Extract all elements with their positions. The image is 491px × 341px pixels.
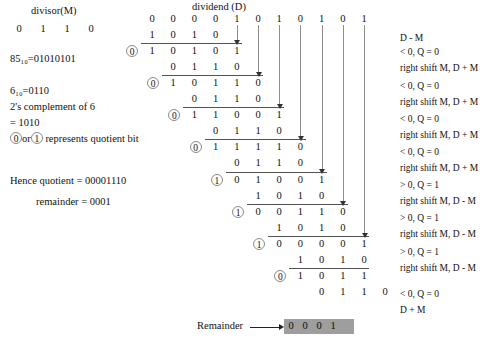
partial-remainder-bit: 1 [209,142,223,153]
remainder-bit: 0 [312,321,326,332]
sum-rule [268,236,369,237]
operand-bit: 1 [145,30,159,41]
bring-down-line [300,25,301,136]
remainder-label: Remainder [197,321,243,332]
partial-remainder-bit: 1 [272,110,286,121]
operand-bit: 1 [187,62,201,73]
operand-bit: 1 [272,223,286,234]
operand-bit: 0 [209,30,223,41]
partial-remainder-bit: 0 [251,207,265,218]
partial-remainder-bit: 0 [272,239,286,250]
partial-remainder-bit: 0 [336,239,350,250]
partial-remainder-bit: 1 [251,175,265,186]
partial-remainder-bit: 1 [272,142,286,153]
quotient-bit: 1 [253,238,265,250]
remainder-bit: 1 [326,321,340,332]
operand-bit: 0 [230,158,244,169]
note-d-minus-m: D - M [400,34,423,44]
dividend-bit: 1 [272,14,286,25]
partial-remainder-bit: 0 [166,46,180,57]
partial-remainder-bit: 0 [230,110,244,121]
operand-bit: 1 [209,62,223,73]
partial-remainder-bit: 0 [251,110,265,121]
partial-remainder-bit: 0 [209,46,223,57]
partial-remainder-bit: 0 [293,142,307,153]
partial-remainder-bit: 1 [293,271,307,282]
bring-down-line [237,25,238,40]
sum-rule [205,139,306,140]
operand-bit: 1 [293,255,307,266]
bring-down-arrow-icon [277,104,283,109]
partial-remainder-bit: 1 [315,175,329,186]
note-action: right shift M, D - M [400,264,476,274]
operand-bit: 0 [166,62,180,73]
partial-remainder-bit: 1 [357,271,371,282]
operand-bit: 0 [272,126,286,137]
note-compare: < 0, Q = 0 [400,148,439,158]
remainder-value-box: 0 0 0 1 [284,319,354,334]
operand-bit: 1 [293,191,307,202]
bring-down-arrow-icon [298,136,304,141]
note-compare: < 0, Q = 0 [400,48,439,58]
dividend-bit: 0 [187,14,201,25]
partial-remainder-bit: 0 [315,271,329,282]
operand-bit: 1 [251,126,265,137]
operand-bit: 0 [230,62,244,73]
partial-remainder-bit: 0 [187,78,201,89]
operand-bit: 0 [293,158,307,169]
bring-down-arrow-icon [319,169,325,174]
partial-remainder-bit: 0 [315,239,329,250]
operand-bit: 0 [336,223,350,234]
division-work-area: 0000101010110100101010110010110011001100… [0,0,392,341]
note-d-plus-m: D + M [400,306,425,316]
partial-remainder-bit: 1 [336,271,350,282]
operand-bit: 1 [315,223,329,234]
quotient-bit: 0 [190,141,202,153]
partial-remainder-bit: 1 [315,207,329,218]
bring-down-line [322,25,323,169]
operand-bit: 0 [293,223,307,234]
dividend-bit: 0 [336,14,350,25]
bring-down-arrow-icon [256,72,262,77]
partial-remainder-bit: 0 [272,207,286,218]
partial-remainder-bit: 0 [336,207,350,218]
operand-bit: 1 [230,94,244,105]
operand-bit: 0 [209,126,223,137]
partial-remainder-bit: 0 [293,239,307,250]
operand-bit: 0 [357,255,371,266]
sum-rule [183,107,284,108]
remainder-bit: 0 [284,321,298,332]
operand-bit: 1 [251,191,265,202]
note-compare: > 0, Q = 1 [400,248,439,258]
partial-remainder-bit: 0 [272,175,286,186]
dividend-bit: 0 [209,14,223,25]
operand-bit: 1 [272,158,286,169]
note-compare: > 0, Q = 1 [400,181,439,191]
bring-down-arrow-icon [362,233,368,238]
bring-down-line [364,25,365,233]
operand-bit: 1 [187,30,201,41]
bring-down-arrow-icon [340,201,346,206]
operand-bit: 0 [272,191,286,202]
note-compare: < 0, Q = 0 [400,290,439,300]
partial-remainder-bit: 0 [293,175,307,186]
partial-remainder-bit: 1 [145,46,159,57]
note-action: right shift M, D + M [400,98,478,108]
partial-remainder-bit: 1 [251,142,265,153]
sum-rule [141,43,242,44]
operand-bit: 1 [336,255,350,266]
operand-bit: 1 [251,158,265,169]
note-action: right shift M, D - M [400,197,476,207]
bring-down-line [343,25,344,201]
dividend-bit: 0 [166,14,180,25]
dividend-bit: 0 [293,14,307,25]
bring-down-arrow-icon [234,40,240,45]
partial-remainder-bit: 1 [209,78,223,89]
note-compare: < 0, Q = 0 [400,115,439,125]
operand-bit: 1 [230,126,244,137]
bring-down-line [258,25,259,72]
partial-remainder-bit: 1 [230,46,244,57]
operand-bit: 0 [315,287,329,298]
quotient-bit: 0 [168,109,180,121]
quotient-bit: 1 [232,206,244,218]
